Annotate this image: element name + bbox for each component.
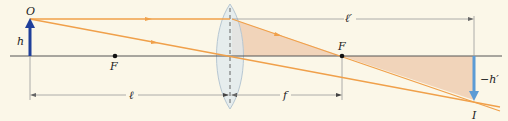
focal-point-left	[113, 54, 118, 59]
shaded-triangle-image	[342, 56, 474, 100]
label-object-distance: ℓ	[129, 89, 134, 102]
label-object-point: O	[26, 5, 35, 18]
diagram-canvas: O h F F ℓ′ ℓ f −h′ I	[0, 0, 508, 121]
label-image-height: −h′	[480, 73, 499, 86]
label-image-distance: ℓ′	[345, 12, 353, 25]
label-image-point: I	[471, 109, 477, 121]
label-focal-point-right: F	[337, 40, 346, 53]
label-object-height: h	[17, 35, 24, 48]
focal-point-right	[340, 54, 345, 59]
lens-diagram: O h F F ℓ′ ℓ f −h′ I	[0, 0, 508, 121]
arrowhead-icon	[30, 93, 36, 97]
arrowhead-icon	[336, 93, 342, 97]
ray-direction-arrow-icon	[274, 32, 282, 36]
ray-direction-arrow-icon	[145, 17, 152, 21]
arrowhead-icon	[468, 17, 474, 21]
label-focal-point-left: F	[109, 60, 118, 73]
label-focal-length: f	[282, 89, 289, 102]
